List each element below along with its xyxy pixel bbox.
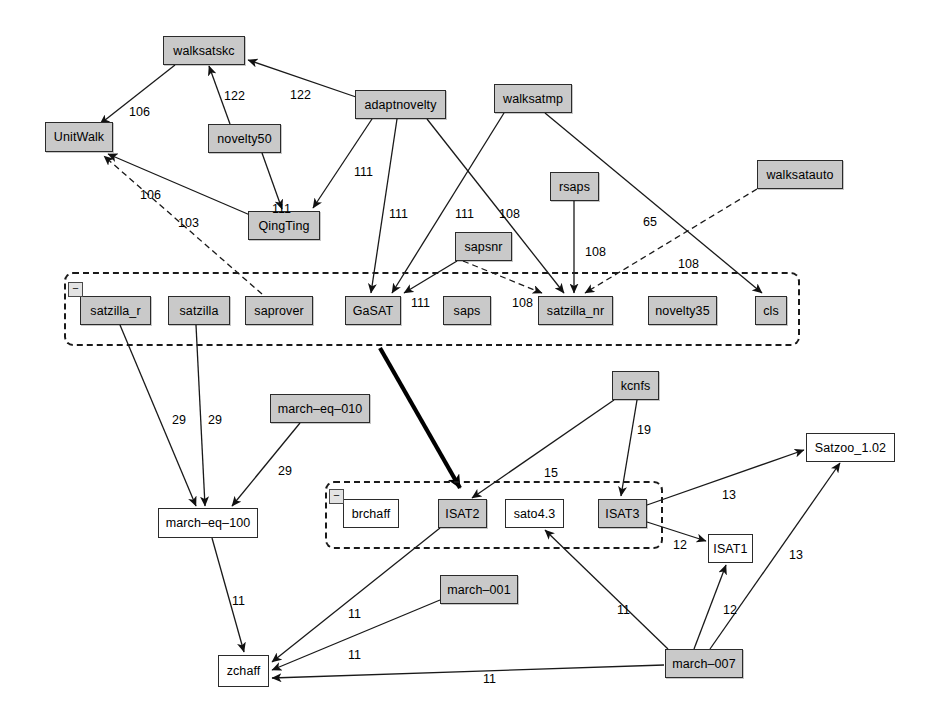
node-satzoo-1-02[interactable]: Satzoo_1.02 [806, 433, 895, 462]
node-label: ISAT2 [445, 507, 479, 521]
node-label: brchaff [352, 507, 391, 521]
node-isat3[interactable]: ISAT3 [598, 499, 647, 528]
node-isat2[interactable]: ISAT2 [438, 499, 487, 528]
node-rsaps[interactable]: rsaps [550, 172, 599, 201]
node-saps[interactable]: saps [443, 296, 491, 325]
node-label: adaptnovelty [364, 98, 436, 112]
edge-walksatmp-cls [545, 113, 762, 293]
edge-label-isat3-satzoo: 13 [722, 488, 736, 502]
node-satzilla-r[interactable]: satzilla_r [80, 296, 151, 325]
edge-label-march001-zchaff: 11 [348, 648, 361, 662]
edge-label-sapsnr-gasat: 111 [411, 296, 430, 310]
node-label: Satzoo_1.02 [815, 441, 886, 455]
edge-weight: 65 [643, 215, 657, 229]
edge-weight: 29 [208, 413, 222, 427]
edge-label-kcnfs-isat3: 19 [637, 423, 651, 437]
node-unitwalk[interactable]: UnitWalk [45, 122, 113, 152]
edge-weight: 111 [354, 165, 373, 179]
collapse-button-isat-row[interactable]: − [329, 489, 344, 504]
node-march-001[interactable]: march–001 [440, 575, 518, 604]
collapse-button-isat-row-label: − [333, 490, 339, 501]
node-zchaff[interactable]: zchaff [218, 655, 269, 687]
node-label: novelty35 [655, 304, 709, 318]
node-gasat[interactable]: GaSAT [345, 296, 401, 325]
edge-label-marcheq100-zchaff: 11 [232, 594, 245, 608]
node-label: sapsnr [464, 240, 502, 254]
collapse-button-satzilla-row-label: − [72, 283, 78, 294]
diagram-canvas: − − walksatskc adaptnovelty walksatmp Un… [0, 0, 938, 726]
edge-weight: 12 [673, 538, 687, 552]
edge-label-walksatmp-gasat: 111 [455, 207, 474, 221]
edge-weight: 111 [411, 296, 430, 310]
collapse-button-satzilla-row[interactable]: − [68, 282, 83, 297]
edge-novelty50-qingting [262, 153, 282, 209]
edge-weight: 15 [544, 466, 558, 480]
node-label: QingTing [258, 219, 309, 233]
node-label: walksatskc [173, 44, 234, 58]
node-walksatskc[interactable]: walksatskc [163, 36, 245, 65]
edge-qingting-unitwalk [108, 154, 250, 215]
edge-label-satzilla-marcheq100: 29 [208, 413, 222, 427]
edge-label-march007-satzoo: 13 [789, 548, 803, 562]
edge-label-marcheq010-marcheq100: 29 [278, 464, 292, 478]
node-label: walksatauto [766, 168, 833, 182]
node-label: ISAT1 [713, 542, 747, 556]
edge-label-adaptnovelty-gasat: 111 [389, 207, 408, 221]
node-label: ISAT3 [605, 507, 639, 521]
edge-satzilla-marcheq100 [196, 325, 205, 506]
edge-weight: 11 [617, 603, 630, 617]
edge-weight: 12 [723, 603, 737, 617]
node-brchaff[interactable]: brchaff [343, 499, 399, 528]
edge-weight: 108 [585, 245, 606, 259]
node-label: UnitWalk [54, 130, 104, 144]
edge-label-saprover-unitwalk: 103 [178, 216, 199, 230]
node-march-eq-010[interactable]: march–eq–010 [270, 394, 370, 423]
node-label: saprover [254, 304, 303, 318]
node-cls[interactable]: cls [755, 296, 787, 325]
node-label: march–001 [447, 583, 510, 597]
edge-weight: 11 [483, 672, 496, 686]
edge-weight: 111 [389, 207, 408, 221]
node-sato4-3[interactable]: sato4.3 [505, 499, 564, 528]
node-march-007[interactable]: march–007 [665, 649, 743, 678]
edge-weight: 106 [140, 188, 161, 202]
node-kcnfs[interactable]: kcnfs [612, 371, 659, 400]
node-label: walksatmp [503, 92, 563, 106]
node-label: march–eq–100 [166, 516, 251, 530]
edge-label-march007-zchaff: 11 [483, 672, 496, 686]
node-isat1[interactable]: ISAT1 [708, 534, 753, 563]
edge-weight: 11 [232, 594, 245, 608]
edge-weight: 108 [678, 257, 699, 271]
edge-weight: 103 [178, 216, 199, 230]
edge-weight: 106 [129, 105, 150, 119]
node-label: satzilla_nr [547, 304, 604, 318]
node-sapsnr[interactable]: sapsnr [455, 232, 512, 261]
edge-weight: 29 [172, 413, 186, 427]
edge-weight: 122 [224, 89, 245, 103]
node-novelty50[interactable]: novelty50 [208, 124, 281, 153]
node-novelty35[interactable]: novelty35 [648, 296, 717, 325]
node-satzilla[interactable]: satzilla [168, 296, 230, 325]
edge-march007-zchaff [272, 665, 664, 678]
edge-weight: 13 [722, 488, 736, 502]
edge-label-march007-sato43: 11 [617, 603, 630, 617]
edge-weight: 11 [348, 607, 361, 621]
node-label: novelty50 [217, 132, 271, 146]
node-march-eq-100[interactable]: march–eq–100 [158, 508, 258, 538]
edge-weight: 108 [512, 296, 533, 310]
edge-label-novelty50-qingting: 111 [272, 202, 291, 216]
node-label: sato4.3 [514, 507, 556, 521]
edge-label-adaptnovelty-qingting: 111 [354, 165, 373, 179]
node-label: satzilla_r [90, 304, 140, 318]
node-walksatmp[interactable]: walksatmp [494, 84, 572, 113]
node-adaptnovelty[interactable]: adaptnovelty [355, 90, 446, 119]
node-saprover[interactable]: saprover [245, 296, 313, 325]
node-satzilla-nr[interactable]: satzilla_nr [538, 296, 613, 325]
node-label: saps [454, 304, 481, 318]
edge-label-qingting-unitwalk: 106 [140, 188, 161, 202]
node-label: zchaff [227, 664, 261, 678]
edge-weight: 11 [348, 648, 361, 662]
edge-weight: 111 [455, 207, 474, 221]
edge-label-kcnfs-isat2: 15 [544, 466, 558, 480]
node-walksatauto[interactable]: walksatauto [757, 160, 843, 189]
